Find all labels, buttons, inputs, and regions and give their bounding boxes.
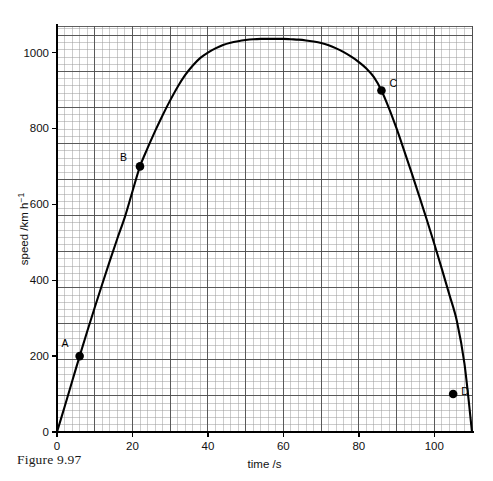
y-tick-label: 400	[30, 274, 49, 286]
y-tick-label: 1000	[23, 47, 49, 59]
y-tick-label: 800	[30, 122, 49, 134]
y-tick-label: 0	[43, 426, 49, 438]
x-tick-label: 100	[425, 440, 444, 452]
data-point-marker-d	[449, 390, 458, 399]
x-tick-label: 20	[126, 440, 139, 452]
figure-container: 02004006008001000020406080100 ABCD time …	[0, 0, 493, 481]
x-tick-label: 0	[54, 440, 60, 452]
data-point-label-c: C	[389, 77, 397, 89]
x-tick-label: 80	[352, 440, 365, 452]
data-point-label-b: B	[120, 151, 127, 163]
data-point-label-d: D	[461, 385, 469, 397]
y-tick-label: 600	[30, 198, 49, 210]
x-tick-label: 40	[202, 440, 215, 452]
speed-time-graph: 02004006008001000020406080100 ABCD time …	[0, 0, 493, 481]
data-point-marker-c	[377, 86, 386, 95]
y-axis-title: speed /km h−1	[16, 193, 30, 266]
x-axis-title: time /s	[248, 458, 282, 470]
data-point-marker-b	[136, 162, 145, 171]
y-tick-label: 200	[30, 350, 49, 362]
data-point-marker-a	[75, 352, 84, 361]
x-tick-label: 60	[277, 440, 290, 452]
figure-caption: Figure 9.97	[17, 452, 81, 468]
data-point-label-a: A	[62, 337, 69, 349]
